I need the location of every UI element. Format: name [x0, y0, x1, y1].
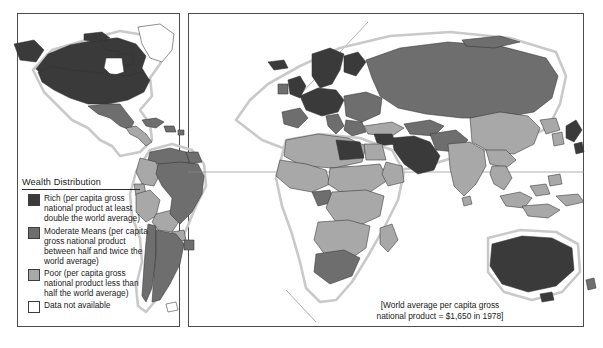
legend-label-poor: Poor (per capita gross national product …: [44, 268, 154, 298]
legend-label-moderate: Moderate Means (per capita gross nationa…: [44, 226, 154, 266]
world-average-annotation: [World average per capita gross national…: [352, 300, 528, 321]
legend-label-no-data: Data not available: [44, 300, 154, 310]
legend-title: Wealth Distribution: [22, 177, 140, 190]
legend-swatch-rich: [28, 194, 40, 206]
legend-swatch-poor: [28, 269, 40, 281]
legend-swatch-moderate: [28, 227, 40, 239]
map-panel-eastern-hemisphere: [188, 13, 584, 327]
world-wealth-distribution-map: .land { stroke:#333; stroke-width:.55; s…: [0, 0, 603, 348]
legend-item-no-data: Data not available: [22, 300, 154, 313]
legend-label-rich: Rich (per capita gross national product …: [44, 193, 154, 223]
legend-swatch-no-data: [28, 301, 40, 313]
legend: Wealth Distribution Rich (per capita gro…: [22, 177, 154, 315]
legend-item-poor: Poor (per capita gross national product …: [22, 268, 154, 298]
annotation-line-2: national product = $1,650 in 1978]: [352, 311, 528, 322]
legend-item-moderate: Moderate Means (per capita gross nationa…: [22, 226, 154, 266]
legend-item-rich: Rich (per capita gross national product …: [22, 193, 154, 223]
country-new-zealand: [586, 278, 596, 290]
annotation-line-1: [World average per capita gross: [352, 300, 528, 311]
